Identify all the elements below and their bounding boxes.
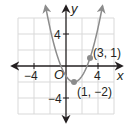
parabola-graph: −4 4 4 −4 y x O (1, −2) (3, 1) [0,0,130,128]
y-axis-label: y [70,1,79,16]
vertex-point-label: (1, −2) [77,85,112,99]
point-3-1-label: (3, 1) [93,46,121,60]
y-tick-label-neg4: −4 [48,92,62,106]
y-tick-label-4: 4 [54,28,61,42]
graph-canvas: −4 4 4 −4 y x O (1, −2) (3, 1) [0,0,130,128]
x-tick-label-neg4: −4 [24,69,38,83]
x-tick-label-4: 4 [94,69,101,83]
x-axis-label: x [116,68,124,83]
